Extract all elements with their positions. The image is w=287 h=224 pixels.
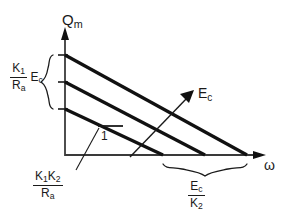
ec-arrow-label-sub: c xyxy=(207,92,212,103)
left-brace-multiplier: Ec xyxy=(30,71,42,85)
origin-leader-line xyxy=(76,128,99,170)
ec-direction-arrow xyxy=(130,90,194,157)
torque-speed-diagram: Qm ω Ec 1 K1 Ra Ec K1K2 Ra Ec K2 xyxy=(0,0,287,224)
origin-leader-stroke xyxy=(76,128,99,170)
y-axis-label-main: Q xyxy=(62,11,74,28)
slope-value: 1 xyxy=(101,129,108,143)
fraction-denominator: Ra xyxy=(33,186,63,201)
fraction-denominator: K2 xyxy=(188,196,205,211)
left-brace-value-label: K1 Ra Ec xyxy=(10,62,43,93)
y-axis-label: Qm xyxy=(62,12,83,30)
bottom-brace-value-label: Ec K2 xyxy=(188,180,205,211)
k1-over-ra-fraction: K1 Ra xyxy=(10,62,27,93)
origin-value-label: K1K2 Ra xyxy=(33,170,63,201)
ec-over-k2-fraction: Ec K2 xyxy=(188,180,205,211)
ec-arrow-label: Ec xyxy=(198,86,212,103)
fraction-numerator: Ec xyxy=(188,180,205,196)
ec-arrow-label-main: E xyxy=(198,85,207,101)
characteristic-line-1 xyxy=(65,109,163,155)
axis-group xyxy=(61,27,266,159)
fraction-numerator: K1 xyxy=(10,62,27,78)
k1k2-over-ra-fraction: K1K2 Ra xyxy=(33,170,63,201)
y-axis-label-sub: m xyxy=(74,18,83,30)
x-axis-label-main: ω xyxy=(264,157,275,173)
slope-value-label: 1 xyxy=(101,130,108,142)
x-axis-label: ω xyxy=(264,158,275,172)
fraction-denominator: Ra xyxy=(10,78,27,93)
ec-arrow-head xyxy=(180,90,194,103)
bottom-curly-brace xyxy=(163,164,247,176)
fraction-numerator: K1K2 xyxy=(33,170,63,186)
